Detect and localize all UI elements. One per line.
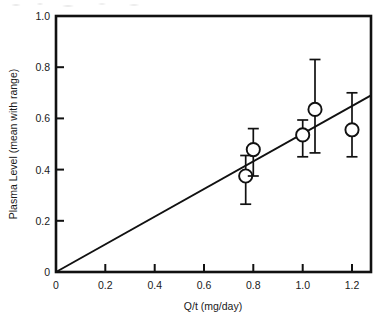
y-tick-label-0: 0 <box>44 266 50 278</box>
y-axis-tick-labels: 0 0.2 0.4 0.6 0.8 1.0 <box>35 10 50 278</box>
data-point-3 <box>296 120 309 157</box>
x-tick-label-0.8: 0.8 <box>246 279 261 291</box>
marker-circle-4 <box>308 103 321 116</box>
x-tick-label-0.2: 0.2 <box>98 279 113 291</box>
plot-frame <box>56 16 371 272</box>
y-tick-label-0.2: 0.2 <box>35 215 50 227</box>
data-point-2 <box>247 129 260 176</box>
y-axis-title: Plasma Level (mean with range) <box>7 69 19 220</box>
x-tick-label-1.0: 1.0 <box>295 279 310 291</box>
data-point-4 <box>308 60 321 153</box>
marker-circle-2 <box>247 143 260 156</box>
y-tick-label-0.4: 0.4 <box>35 164 50 176</box>
y-tick-label-0.6: 0.6 <box>35 112 50 124</box>
y-tick-label-1.0: 1.0 <box>35 10 50 22</box>
x-tick-label-0: 0 <box>53 279 59 291</box>
marker-circle-5 <box>345 123 358 136</box>
figure-container: 0 0.2 0.4 0.6 0.8 1.0 0 0.2 0.4 0.6 0.8 … <box>0 0 381 318</box>
regression-line <box>56 95 371 272</box>
x-tick-label-0.6: 0.6 <box>197 279 212 291</box>
x-tick-label-1.2: 1.2 <box>345 279 360 291</box>
marker-circle-3 <box>296 128 309 141</box>
y-tick-label-0.8: 0.8 <box>35 61 50 73</box>
x-axis-tick-labels: 0 0.2 0.4 0.6 0.8 1.0 1.2 <box>53 279 359 291</box>
x-axis-title: Q/t (mg/day) <box>184 300 242 312</box>
scatter-plot-with-error-bars: 0 0.2 0.4 0.6 0.8 1.0 0 0.2 0.4 0.6 0.8 … <box>0 0 381 318</box>
x-tick-label-0.4: 0.4 <box>147 279 162 291</box>
